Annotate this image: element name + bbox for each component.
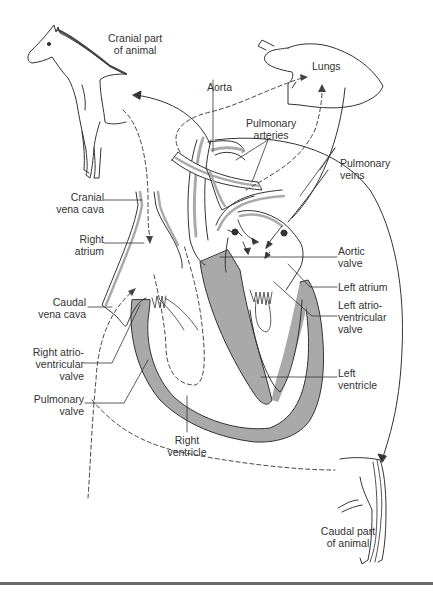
label-line: Pulmonary <box>20 393 84 405</box>
label-line: Pulmonary <box>246 117 296 129</box>
label-line: Caudal <box>20 296 86 308</box>
label-right-atrium: Right atrium <box>40 233 104 257</box>
label-line: ventricular <box>14 358 84 370</box>
label-line: Caudal part <box>316 525 380 537</box>
label-line: veins <box>340 169 390 181</box>
label-right-ventricle: Right ventricle <box>160 434 214 458</box>
label-pulmonary-valve: Pulmonary valve <box>20 393 84 417</box>
label-line: Aorta <box>207 81 232 93</box>
arrowhead-icon <box>378 454 386 462</box>
label-left-ventricle: Left ventricle <box>338 367 377 391</box>
label-aortic-valve: Aortic valve <box>338 245 365 269</box>
heart-muscle <box>131 250 324 442</box>
label-line: arteries <box>246 129 296 141</box>
label-line: valve <box>338 257 365 269</box>
label-line: ventricular <box>338 311 386 323</box>
label-line: ventricle <box>160 446 214 458</box>
arrowhead-icon <box>133 91 141 99</box>
aorta-cranial-flow <box>135 95 210 144</box>
label-line: atrium <box>40 245 104 257</box>
label-line: Left atrio- <box>338 299 386 311</box>
label-line: of animal <box>108 44 162 56</box>
label-line: Cranial part <box>108 32 162 44</box>
label-line: valve <box>20 405 84 417</box>
label-line: vena cava <box>40 203 104 215</box>
lungs-illustration <box>258 40 383 108</box>
label-line: Pulmonary <box>340 157 390 169</box>
label-line: Aortic <box>338 245 365 257</box>
flow-arrows <box>238 220 282 258</box>
label-line: Right <box>40 233 104 245</box>
label-line: of animal <box>316 537 380 549</box>
label-line: valve <box>338 323 386 335</box>
label-left-av-valve: Left atrio- ventricular valve <box>338 299 386 335</box>
label-line: Right <box>160 434 214 446</box>
label-line: valve <box>14 370 84 382</box>
label-line: Left atrium <box>338 281 388 293</box>
label-lungs: Lungs <box>312 60 341 72</box>
label-right-av-valve: Right atrio- ventricular valve <box>14 346 84 382</box>
label-pulmonary-arteries: Pulmonary arteries <box>246 117 296 141</box>
label-cranial-part: Cranial part of animal <box>108 32 162 56</box>
label-line: Right atrio- <box>14 346 84 358</box>
bottom-rule <box>0 582 433 585</box>
label-line: Cranial <box>40 191 104 203</box>
label-line: Lungs <box>312 60 341 72</box>
label-line: Left <box>338 367 377 379</box>
label-pulmonary-veins: Pulmonary veins <box>340 157 390 181</box>
label-caudal-part: Caudal part of animal <box>316 525 380 549</box>
label-caudal-vena-cava: Caudal vena cava <box>20 296 86 320</box>
label-left-atrium: Left atrium <box>338 281 388 293</box>
label-cranial-vena-cava: Cranial vena cava <box>40 191 104 215</box>
label-line: vena cava <box>20 308 86 320</box>
label-aorta: Aorta <box>207 81 232 93</box>
label-line: ventricle <box>338 379 377 391</box>
